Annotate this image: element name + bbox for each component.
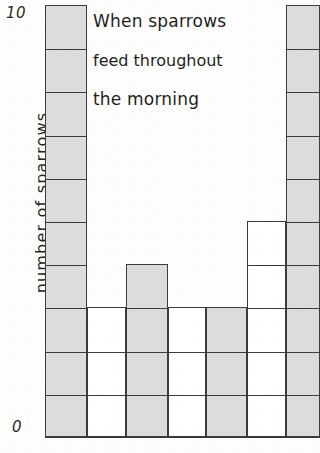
bar-5-unit-line-2 — [207, 395, 246, 396]
bar-2-unit-line-1 — [88, 352, 125, 353]
bar-7-unit-line-3 — [287, 136, 319, 137]
bar-1-unit-line-2 — [46, 92, 86, 93]
bar-7-unit-line-1 — [287, 49, 319, 50]
bar-1-unit-line-8 — [46, 352, 86, 353]
bar-3-unit-line-3 — [127, 395, 167, 396]
bar-1 — [45, 5, 87, 437]
bar-4-unit-line-2 — [169, 395, 205, 396]
bar-5 — [206, 307, 247, 437]
bar-6-unit-line-1 — [248, 265, 285, 266]
x-axis-baseline — [45, 436, 320, 438]
bar-7-unit-line-9 — [287, 395, 319, 396]
bar-7-unit-line-6 — [287, 265, 319, 266]
chart-title-line-2: feed throughout — [93, 41, 278, 80]
bar-2 — [87, 307, 126, 437]
bar-1-unit-line-9 — [46, 395, 86, 396]
bar-7-unit-line-4 — [287, 179, 319, 180]
bar-3-unit-line-2 — [127, 352, 167, 353]
bar-7-unit-line-2 — [287, 92, 319, 93]
bar-4 — [168, 307, 206, 437]
bar-7-unit-line-7 — [287, 308, 319, 309]
bar-7-unit-line-5 — [287, 222, 319, 223]
handdrawn-bar-chart: 10 0 number of sparrows When sparrows fe… — [0, 0, 320, 453]
bar-7-unit-line-8 — [287, 352, 319, 353]
bar-1-unit-line-7 — [46, 308, 86, 309]
chart-title: When sparrows feed throughout the mornin… — [93, 2, 278, 119]
bar-4-unit-line-1 — [169, 352, 205, 353]
bar-3 — [126, 264, 168, 437]
bar-2-unit-line-2 — [88, 395, 125, 396]
bar-5-unit-line-1 — [207, 352, 246, 353]
bar-7 — [286, 5, 320, 437]
bar-6-unit-line-2 — [248, 308, 285, 309]
y-axis-tick-top: 10 — [6, 4, 26, 22]
chart-title-line-3: the morning — [93, 80, 278, 119]
bar-1-unit-line-4 — [46, 179, 86, 180]
bar-6 — [247, 221, 286, 437]
bar-1-unit-line-3 — [46, 136, 86, 137]
bar-1-unit-line-1 — [46, 49, 86, 50]
chart-title-line-1: When sparrows — [93, 2, 278, 41]
bar-1-unit-line-5 — [46, 222, 86, 223]
bar-6-unit-line-4 — [248, 395, 285, 396]
y-axis-tick-bottom: 0 — [12, 418, 22, 436]
bar-1-unit-line-6 — [46, 265, 86, 266]
bar-3-unit-line-1 — [127, 308, 167, 309]
bar-6-unit-line-3 — [248, 352, 285, 353]
